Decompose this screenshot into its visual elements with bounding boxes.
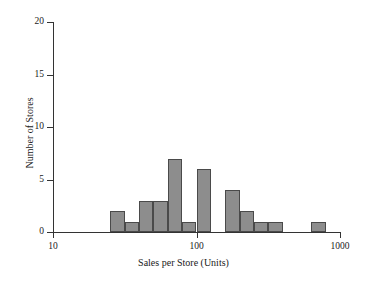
histogram-bar [182, 222, 196, 233]
x-axis-tick [197, 232, 198, 238]
histogram-bar [268, 222, 282, 233]
y-axis-label: Number of Stores [23, 63, 37, 203]
histogram-bar [225, 190, 239, 232]
histogram-figure: 05101520 101001000 Sales per Store (Unit… [0, 0, 367, 281]
plot-area [53, 22, 340, 232]
histogram-bar [254, 222, 268, 233]
x-axis-tick [340, 232, 341, 238]
y-axis-tick-label: 20 [35, 15, 45, 28]
histogram-bar [125, 222, 139, 233]
histogram-bar [168, 159, 182, 233]
histogram-bar [153, 201, 167, 233]
x-axis-tick [53, 232, 54, 238]
x-axis-tick-label: 1000 [331, 240, 350, 253]
x-axis-label: Sales per Store (Units) [0, 256, 367, 270]
y-axis-label-holder: Number of Stores [16, 22, 30, 232]
histogram-bar [139, 201, 153, 233]
histogram-bar [197, 169, 211, 232]
histogram-bar [311, 222, 325, 233]
y-axis-tick-label: 5 [39, 173, 44, 186]
histogram-bar [110, 211, 124, 232]
x-axis-tick-label: 10 [48, 240, 58, 253]
histogram-bar [240, 211, 254, 232]
y-axis-tick-label: 0 [39, 225, 44, 238]
x-axis-tick-label: 100 [189, 240, 203, 253]
